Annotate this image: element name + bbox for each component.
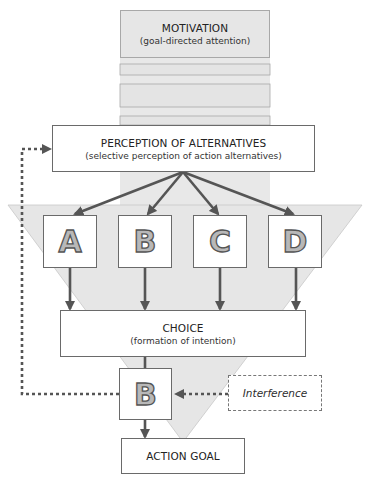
perception-title: PERCEPTION OF ALTERNATIVES — [101, 137, 266, 149]
alternative-label: C — [209, 224, 231, 259]
interference-box: Interference — [228, 375, 322, 411]
motivation-strip-1 — [120, 64, 270, 75]
perception-subtitle: (selective perception of action alternat… — [85, 151, 282, 161]
alternative-label: D — [283, 224, 308, 259]
choice-subtitle: (formation of intention) — [130, 336, 235, 346]
motivation-subtitle: (goal-directed attention) — [140, 36, 250, 46]
motivation-strip-2 — [120, 84, 270, 107]
action-goal-box: ACTION GOAL — [121, 438, 245, 474]
alternative-label: A — [58, 224, 81, 259]
selected-alternative-box: B — [119, 368, 172, 420]
motivation-box: MOTIVATION (goal-directed attention) — [120, 10, 270, 58]
interference-label: Interference — [243, 387, 307, 399]
alternative-box-b: B — [118, 215, 172, 268]
choice-box: CHOICE (formation of intention) — [60, 310, 306, 357]
choice-title: CHOICE — [162, 322, 203, 334]
feedback-arrowhead-icon — [42, 144, 52, 154]
alternative-label: B — [134, 224, 157, 259]
action-goal-title: ACTION GOAL — [146, 450, 220, 462]
perception-box: PERCEPTION OF ALTERNATIVES (selective pe… — [52, 125, 315, 172]
alternative-box-a: A — [43, 215, 97, 268]
motivation-title: MOTIVATION — [162, 22, 228, 34]
selected-alternative-label: B — [134, 377, 157, 412]
motivation-strip-3 — [120, 116, 270, 125]
alternative-box-c: C — [193, 215, 247, 268]
alternative-box-d: D — [268, 215, 322, 268]
